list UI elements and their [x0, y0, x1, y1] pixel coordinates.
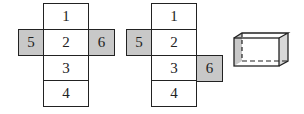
rectangular-prism-icon — [0, 0, 304, 114]
